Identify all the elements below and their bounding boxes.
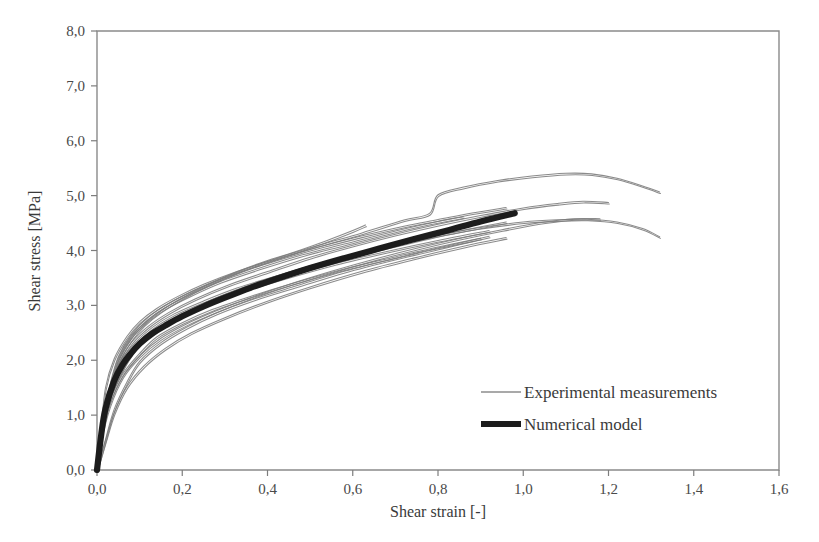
x-tick-label: 0,8 [429,481,448,497]
y-axis: 0,01,02,03,04,05,06,07,08,0 [66,23,97,478]
x-tick-label: 1,0 [514,481,533,497]
y-axis-title: Shear stress [MPa] [26,191,43,312]
y-tick-label: 3,0 [66,297,85,313]
experimental-curve [98,232,490,472]
x-tick-label: 0,4 [258,481,277,497]
experimental-curve [97,222,506,470]
chart-page: 0,01,02,03,04,05,06,07,08,0 0,00,20,40,6… [0,0,819,542]
x-axis: 0,00,20,40,60,81,01,21,41,6 [88,470,789,497]
shear-stress-strain-chart: 0,01,02,03,04,05,06,07,08,0 0,00,20,40,6… [0,0,819,542]
y-tick-label: 0,0 [66,462,85,478]
y-tick-label: 1,0 [66,407,85,423]
y-tick-label: 6,0 [66,133,85,149]
experimental-curve [98,224,507,472]
plot-frame [97,31,779,470]
y-tick-label: 2,0 [66,352,85,368]
x-tick-label: 1,2 [599,481,618,497]
x-axis-title: Shear strain [-] [390,503,486,520]
legend-label: Experimental measurements [524,383,717,402]
y-tick-label: 4,0 [66,243,85,259]
legend-label: Numerical model [524,415,643,434]
x-tick-label: 0,2 [173,481,192,497]
chart-legend: Experimental measurementsNumerical model [481,383,717,434]
experimental-curve [97,231,489,471]
x-tick-label: 1,6 [770,481,789,497]
x-tick-label: 0,0 [88,481,107,497]
y-tick-label: 8,0 [66,23,85,39]
x-tick-label: 1,4 [684,481,703,497]
x-tick-label: 0,6 [343,481,362,497]
y-tick-label: 5,0 [66,188,85,204]
y-tick-label: 7,0 [66,78,85,94]
